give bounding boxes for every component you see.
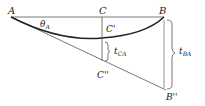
label-theta-a: θA [40, 19, 50, 30]
label-c: C [99, 5, 107, 16]
label-b: B [158, 5, 166, 16]
label-t-ca: tCA [114, 46, 127, 57]
brace-t-ba [167, 20, 175, 89]
label-c-prime: C' [106, 24, 115, 34]
label-a: A [7, 5, 15, 16]
label-c-double-prime: C'' [97, 70, 109, 80]
label-b-double-prime: B'' [165, 92, 178, 102]
beam-diagram: A B C C' C'' B'' θA tCA tBA [0, 0, 205, 106]
brace-t-ca [105, 42, 110, 61]
label-t-ba: tBA [179, 46, 192, 57]
elastic-curve [11, 17, 164, 39]
